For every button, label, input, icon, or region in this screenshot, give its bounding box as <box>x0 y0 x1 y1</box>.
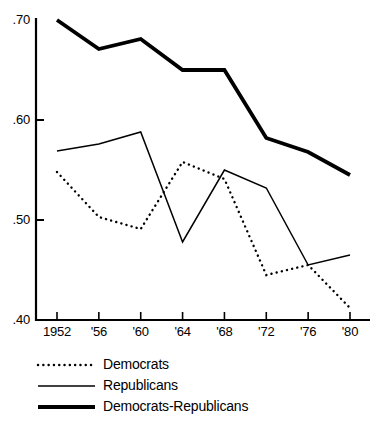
data-series-layer <box>57 20 350 308</box>
y-axis-ticks <box>36 120 44 220</box>
x-tick-label: '72 <box>244 324 288 339</box>
series-line-democrats <box>57 162 350 308</box>
x-tick-label: '76 <box>286 324 330 339</box>
y-tick-label: .50 <box>2 212 30 227</box>
series-line-democrats-republicans <box>57 20 350 175</box>
x-tick-label: '64 <box>161 324 205 339</box>
chart-container: .70.60.50.40 1952'56'60'64'68'72'76'80 D… <box>0 0 386 421</box>
x-axis-ticks <box>57 312 350 320</box>
y-tick-label: .40 <box>2 312 30 327</box>
x-tick-label: '56 <box>77 324 121 339</box>
legend-label-republicans: Republicans <box>103 377 178 393</box>
x-tick-label: 1952 <box>35 324 79 339</box>
x-tick-label: '60 <box>119 324 163 339</box>
x-tick-label: '68 <box>202 324 246 339</box>
chart-plot-area <box>0 0 386 421</box>
legend-label-democrats-republicans: Democrats-Republicans <box>103 398 248 414</box>
x-tick-label: '80 <box>328 324 372 339</box>
legend-swatch-layer <box>38 365 95 407</box>
legend-label-democrats: Democrats <box>103 356 169 372</box>
y-tick-label: .70 <box>2 12 30 27</box>
y-tick-label: .60 <box>2 112 30 127</box>
